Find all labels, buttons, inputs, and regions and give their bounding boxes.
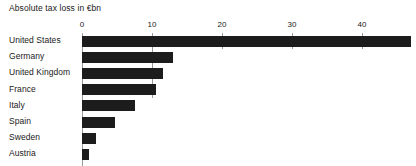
bar-category-label-france: France [9, 84, 89, 94]
chart-title: Absolute tax loss in €bn [9, 3, 101, 13]
x-tick-label-0: 0 [80, 20, 84, 29]
x-tick-label-40: 40 [358, 20, 367, 29]
bar-row: United States [0, 33, 416, 49]
bar-category-label-germany: Germany [9, 51, 89, 61]
bar-italy [82, 100, 135, 111]
bar-chart: Absolute tax loss in €bn 010203040 Unite… [0, 0, 416, 166]
bar-category-label-spain: Spain [9, 116, 89, 126]
bar-united-kingdom [82, 68, 163, 79]
bar-row: France [0, 82, 416, 98]
bar-austria [82, 149, 89, 160]
bar-row: Germany [0, 49, 416, 65]
bar-row: Spain [0, 114, 416, 130]
bar-row: Italy [0, 98, 416, 114]
bar-sweden [82, 133, 96, 144]
bar-category-label-italy: Italy [9, 100, 89, 110]
bar-category-label-sweden: Sweden [9, 132, 89, 142]
x-tick-label-20: 20 [218, 20, 227, 29]
bar-germany [82, 52, 173, 63]
plot-area: 010203040 United StatesGermanyUnited Kin… [0, 20, 416, 166]
bar-category-label-united-states: United States [9, 35, 89, 45]
bar-category-label-united-kingdom: United Kingdom [9, 67, 89, 77]
bar-united-states [82, 36, 411, 47]
bar-france [82, 84, 156, 95]
bars-container: United StatesGermanyUnited KingdomFrance… [0, 33, 416, 166]
x-tick-label-10: 10 [148, 20, 157, 29]
bar-spain [82, 117, 115, 128]
bar-row: United Kingdom [0, 65, 416, 81]
bar-row: Sweden [0, 130, 416, 146]
bar-category-label-austria: Austria [9, 148, 89, 158]
bar-row: Austria [0, 146, 416, 162]
x-tick-label-30: 30 [288, 20, 297, 29]
